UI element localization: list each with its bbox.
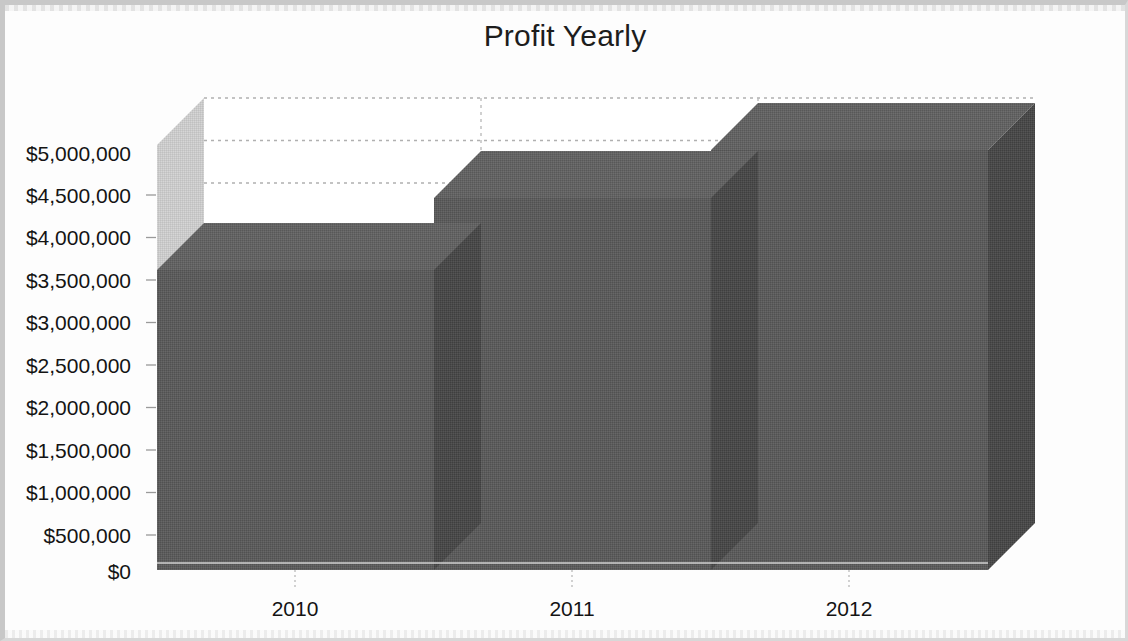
chart-container: Profit Yearly — [0, 0, 1128, 641]
chart-3d-scene — [5, 5, 1128, 641]
bar-2012-top — [711, 103, 1035, 150]
y-axis-label-3500000: $3,500,000 — [11, 270, 131, 291]
x-axis-label-2012: 2012 — [779, 597, 919, 621]
y-axis-label-3000000: $3,000,000 — [11, 312, 131, 333]
bar-2010-top — [157, 223, 481, 270]
bar-2012[interactable] — [711, 103, 1035, 570]
y-axis-label-2000000: $2,000,000 — [11, 397, 131, 418]
scan-artifact-bottom — [5, 630, 1125, 638]
y-axis-label-5000000: $5,000,000 — [11, 143, 131, 164]
chart-plot-area — [5, 5, 1128, 641]
y-axis-label-0: $0 — [11, 561, 131, 582]
x-axis-label-2011: 2011 — [502, 597, 642, 621]
bar-2010-front — [157, 270, 434, 570]
y-axis-label-1000000: $1,000,000 — [11, 482, 131, 503]
bar-2010-side — [434, 223, 481, 570]
y-axis-label-4500000: $4,500,000 — [11, 185, 131, 206]
bar-2011[interactable] — [434, 151, 758, 570]
bar-2012-side — [988, 103, 1035, 570]
y-axis-label-4000000: $4,000,000 — [11, 227, 131, 248]
y-axis-label-2500000: $2,500,000 — [11, 355, 131, 376]
y-axis-label-500000: $500,000 — [11, 525, 131, 546]
bar-2011-top — [434, 151, 758, 198]
bar-2010[interactable] — [157, 223, 481, 570]
y-axis-ticks — [146, 195, 156, 535]
x-axis-label-2010: 2010 — [225, 597, 365, 621]
y-axis-label-1500000: $1,500,000 — [11, 440, 131, 461]
x-axis-ticks — [295, 570, 849, 587]
y-axis — [146, 195, 156, 535]
bar-2011-side — [711, 151, 758, 570]
